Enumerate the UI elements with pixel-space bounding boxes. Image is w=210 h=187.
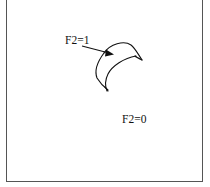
label-f2-equals-1: F2=1	[65, 35, 89, 47]
label-f2-equals-0: F2=0	[122, 114, 146, 126]
curved-surface-diagram	[0, 0, 210, 187]
curved-surface-shape	[96, 43, 142, 91]
